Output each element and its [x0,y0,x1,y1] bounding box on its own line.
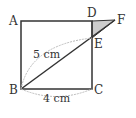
label-a: A [8,14,18,28]
label-c: C [94,83,103,97]
label-f: F [117,13,125,27]
label-b: B [9,83,18,97]
label-d: D [87,6,97,20]
geometry-figure: A D F E B C 5 cm 4 cm [0,0,136,118]
dimension-label-bc: 4 cm [43,92,71,105]
label-e: E [94,37,103,51]
dimension-label-be: 5 cm [33,48,61,61]
